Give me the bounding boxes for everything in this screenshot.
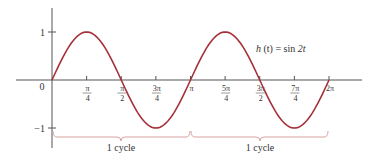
x-tick-label: π: [189, 84, 193, 93]
x-tick-label-denominator: 4: [224, 94, 228, 103]
x-tick-label: 3π: [153, 84, 161, 93]
function-rhs-arg: 2t: [298, 43, 306, 54]
x-tick-label-denominator: 2: [259, 94, 263, 103]
sine-chart: 1 −1 0 π4π23π4π5π43π27π42π h (t) = sin 2…: [0, 0, 378, 155]
function-arg: (t) =: [261, 43, 284, 55]
x-tick-label: 7π: [291, 84, 299, 93]
x-tick-label-denominator: 4: [293, 94, 297, 103]
x-tick-label-denominator: 2: [120, 94, 124, 103]
y-tick-label-1: 1: [40, 27, 45, 38]
x-tick-label: 5π: [222, 84, 230, 93]
y-tick-label-neg1: −1: [34, 123, 45, 134]
function-label: h (t) = sin 2t: [256, 43, 306, 55]
function-sin: sin: [284, 43, 298, 54]
cycle-bracket-1: 1 cycle: [53, 131, 190, 153]
origin-label: 0: [40, 81, 45, 92]
cycle-label-2: 1 cycle: [246, 142, 275, 153]
x-tick-label-denominator: 4: [86, 94, 90, 103]
x-tick-label: π: [86, 84, 90, 93]
cycle-label-1: 1 cycle: [107, 142, 136, 153]
cycle-bracket-2: 1 cycle: [191, 131, 328, 153]
x-tick-label-denominator: 4: [155, 94, 159, 103]
